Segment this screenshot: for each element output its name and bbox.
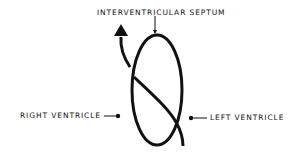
left-ventricle-dot-icon [189,116,193,120]
septum-pointer-tip-icon [153,30,157,34]
right-ventricle-label: RIGHT VENTRICLE [20,112,101,120]
arrowhead-icon [114,24,128,36]
right-ventricle-dot-icon [116,114,120,118]
outflow-arrow-curve [121,37,130,67]
diagram-drawing [0,0,301,155]
heart-septum-diagram: INTERVENTRICULAR SEPTUM RIGHT VENTRICLE … [0,0,301,155]
left-ventricle-label: LEFT VENTRICLE [210,114,284,122]
septum-ellipse [132,35,182,145]
septum-label: INTERVENTRICULAR SEPTUM [97,9,226,17]
